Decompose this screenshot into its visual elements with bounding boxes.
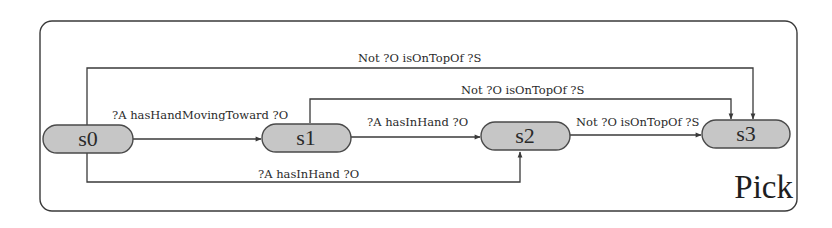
state-label-s3: s3 — [736, 121, 756, 146]
edge-label-s0-s2: ?A hasInHand ?O — [258, 167, 359, 181]
state-label-s1: s1 — [296, 125, 316, 150]
edge-label-s0-s1: ?A hasHandMovingToward ?O — [112, 108, 288, 122]
state-label-s0: s0 — [78, 126, 98, 151]
edge-label-s0-s3: Not ?O isOnTopOf ?S — [358, 51, 481, 65]
edge-label-s1-s3: Not ?O isOnTopOf ?S — [461, 83, 584, 97]
state-node-s3[interactable]: s3 — [702, 120, 790, 148]
state-label-s2: s2 — [515, 123, 535, 148]
state-node-s0[interactable]: s0 — [43, 125, 133, 153]
state-node-s2[interactable]: s2 — [481, 122, 570, 150]
state-machine-diagram: Not ?O isOnTopOf ?S Not ?O isOnTopOf ?S … — [0, 0, 832, 228]
diagram-title: Pick — [734, 169, 793, 205]
edge-label-s2-s3: Not ?O isOnTopOf ?S — [576, 115, 699, 129]
state-node-s1[interactable]: s1 — [262, 124, 351, 152]
edge-label-s1-s2: ?A hasInHand ?O — [367, 115, 468, 129]
